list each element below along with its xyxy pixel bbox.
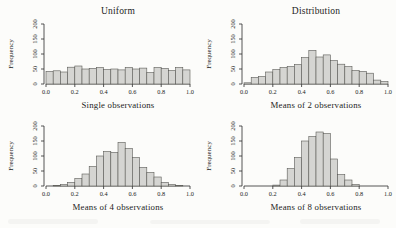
histogram-bar (302, 58, 309, 84)
histogram-bar (53, 185, 60, 186)
histogram-bar (330, 61, 337, 84)
histogram-means-of-2: 050100150200Frequency0.00.20.40.60.81.0 (198, 16, 396, 100)
histogram-bar (302, 141, 309, 186)
histogram-bar (132, 158, 139, 187)
chart-title: Distribution (198, 0, 396, 16)
histogram-bar (118, 70, 125, 84)
histogram-bar (366, 73, 373, 84)
histogram-bar (96, 156, 103, 186)
histogram-bar (381, 82, 388, 84)
histogram-bar (53, 71, 60, 84)
x-tick-label: 1.0 (384, 190, 392, 197)
x-tick-label: 0.6 (128, 190, 136, 197)
histogram-bar (338, 175, 345, 186)
histogram-bar (125, 149, 132, 187)
x-tick-label: 0.2 (269, 190, 277, 197)
x-tick-label: 0.2 (71, 190, 79, 197)
histogram-bar (111, 69, 118, 84)
histogram-bar (132, 69, 139, 84)
histogram-bar (89, 167, 96, 187)
y-tick-label: 150 (229, 136, 236, 145)
x-tick-label: 0.0 (240, 88, 248, 95)
histogram-bar (258, 77, 265, 85)
y-tick-label: 150 (229, 34, 236, 43)
y-tick-label: 150 (31, 34, 38, 43)
histogram-means-of-4: 050100150200Frequency0.00.20.40.60.81.0 (0, 118, 198, 202)
histogram-bar (352, 185, 359, 187)
x-tick-label: 0.4 (100, 88, 109, 95)
x-tick-label: 0.8 (157, 88, 165, 95)
histogram-bar (75, 66, 82, 84)
histogram-bar (168, 71, 175, 85)
histogram-bar (280, 68, 287, 85)
histogram-bar (118, 143, 125, 187)
histogram-bar (60, 185, 67, 187)
histogram-bar (273, 185, 280, 186)
histogram-bar (251, 77, 258, 84)
x-axis-label: Means of 2 observations (198, 100, 396, 114)
x-tick-label: 1.0 (186, 190, 194, 197)
histogram-bar (46, 71, 53, 84)
histogram-bar (316, 132, 323, 186)
histogram-bar (154, 68, 161, 85)
histogram-bar (147, 73, 154, 84)
histogram-bar (82, 69, 89, 84)
y-tick-label: 200 (229, 19, 236, 28)
y-tick-label: 100 (229, 151, 236, 160)
clt-uniform-figure: Uniform 050100150200Frequency0.00.20.40.… (0, 0, 396, 228)
histogram-bar (287, 67, 294, 84)
histogram-bar (266, 72, 273, 84)
histogram-bar (60, 72, 67, 84)
y-tick-label: 200 (31, 19, 38, 28)
x-tick-label: 0.8 (157, 190, 165, 197)
histogram-bar (345, 180, 352, 186)
histogram-bar (104, 152, 111, 187)
histogram-bar (294, 65, 301, 85)
y-tick-label: 50 (229, 168, 236, 174)
histogram-bar (161, 68, 168, 84)
histogram-bar (338, 64, 345, 84)
y-tick-label: 0 (31, 82, 38, 85)
histogram-bar (161, 182, 168, 186)
y-tick-label: 50 (229, 66, 236, 72)
histogram-bar (183, 70, 190, 84)
y-tick-label: 50 (31, 168, 38, 174)
y-tick-label: 0 (229, 82, 236, 85)
y-axis-title: Frequency (205, 39, 213, 69)
panel-means-of-8: 050100150200Frequency0.00.20.40.60.81.0 … (198, 114, 396, 228)
histogram-bar (176, 185, 183, 186)
x-tick-label: 0.4 (298, 88, 307, 95)
histogram-bar (345, 67, 352, 84)
x-tick-label: 0.4 (100, 190, 109, 197)
x-tick-label: 0.6 (128, 88, 136, 95)
x-tick-label: 0.8 (355, 88, 363, 95)
histogram-bar (244, 83, 251, 84)
x-tick-label: 0.2 (71, 88, 79, 95)
histogram-bar (287, 169, 294, 186)
histogram-bar (352, 71, 359, 85)
histogram-bar (176, 68, 183, 85)
y-axis-title: Frequency (205, 141, 213, 171)
x-tick-label: 0.2 (269, 88, 277, 95)
chart-title: Uniform (0, 0, 198, 16)
histogram-bar (147, 173, 154, 187)
histogram-single-observations: 050100150200Frequency0.00.20.40.60.81.0 (0, 16, 198, 100)
y-axis-title: Frequency (7, 141, 15, 171)
x-tick-label: 1.0 (384, 88, 392, 95)
x-tick-label: 1.0 (186, 88, 194, 95)
histogram-bar (309, 137, 316, 187)
histogram-bar (89, 68, 96, 84)
y-tick-label: 200 (229, 121, 236, 130)
histogram-means-of-8: 050100150200Frequency0.00.20.40.60.81.0 (198, 118, 396, 202)
panel-means-of-4: 050100150200Frequency0.00.20.40.60.81.0 … (0, 114, 198, 228)
histogram-bar (323, 55, 330, 84)
histogram-bar (323, 134, 330, 187)
x-tick-label: 0.6 (326, 88, 334, 95)
histogram-bar (309, 50, 316, 84)
y-tick-label: 200 (31, 121, 38, 130)
histogram-bar (68, 67, 75, 84)
y-tick-label: 0 (31, 184, 38, 187)
y-tick-label: 100 (31, 151, 38, 160)
x-tick-label: 0.0 (240, 190, 248, 197)
histogram-bar (294, 158, 301, 187)
